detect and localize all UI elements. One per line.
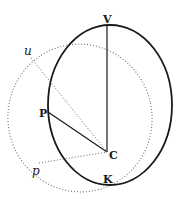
label-p-upper: P [39,107,47,120]
segment-cu-dotted [31,58,107,152]
geometry-figure: V u P C p K [0,0,180,199]
label-c: C [109,149,118,162]
label-u: u [24,44,32,58]
label-k: K [103,173,113,186]
segment-cp-lower-dotted [39,152,107,163]
label-v: V [102,13,112,26]
label-p-lower: p [32,164,40,178]
